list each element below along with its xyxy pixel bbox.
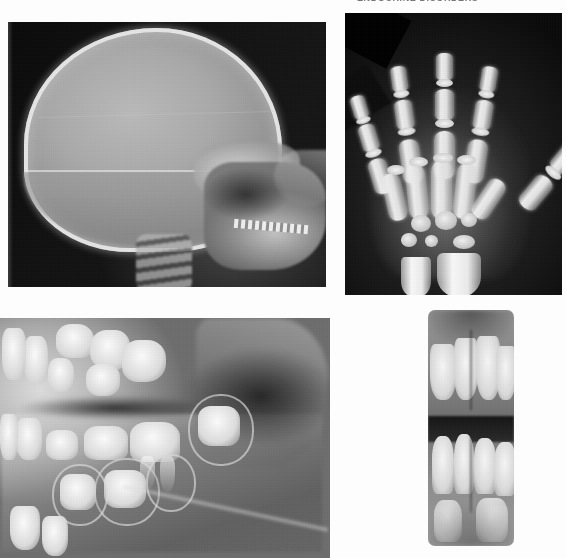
epiphysis-metacarpal-2 [457, 155, 476, 165]
mandibular-alveolar-bone [428, 500, 514, 546]
epiphysis-metacarpal-3 [433, 153, 453, 163]
maxillary-crown-3 [122, 340, 166, 382]
epiphysis-metacarpal-4 [409, 157, 428, 167]
carpal-bone-6 [461, 213, 477, 227]
maxillary-lateral-incisor-left [496, 346, 514, 400]
maxillary-crown-7 [2, 328, 26, 380]
unerupted-molar-crown-distal [198, 406, 240, 446]
maxillary-crown-1 [56, 324, 94, 358]
mandibular-canine [16, 418, 42, 460]
radiograph-lateral-skull [8, 22, 326, 287]
cervical-spine [136, 234, 192, 287]
distal-radius [437, 253, 481, 295]
distal-phalanx-middle [436, 53, 453, 81]
carpal-bone-5 [453, 235, 475, 249]
maxillary-central-incisor-right [454, 338, 478, 400]
maxillary-midline-suture [470, 330, 472, 410]
maxillary-lateral-incisor-right [430, 344, 456, 400]
mandibular-anterior-tooth-1 [10, 506, 40, 550]
radiograph-hand-wrist [345, 13, 562, 295]
carpal-bone-1 [411, 215, 431, 232]
epiphysis-distal-middle [436, 79, 453, 87]
mandibular-lateral-incisor-right [432, 436, 454, 494]
figure-caption-cropped: ENDOCRINE DISORDERS [357, 0, 507, 3]
middle-phalanx-middle [435, 89, 454, 121]
film-periapical [428, 310, 514, 546]
epiphysis-middle-middle [435, 119, 454, 128]
middle-phalanx-ring [393, 99, 415, 131]
mandibular-incisor [0, 414, 18, 460]
carpal-bone-2 [435, 211, 457, 230]
film-edge-left [8, 22, 13, 287]
unerupted-premolar-crown-1 [60, 474, 96, 510]
mandibular-central-incisor-left [474, 438, 496, 494]
caption-text: ENDOCRINE DISORDERS [357, 0, 507, 3]
film-hand-wrist [345, 13, 562, 295]
carpal-bone-3 [401, 233, 417, 247]
maxillary-crown-5 [48, 358, 74, 392]
distal-phalanx-ring [390, 65, 409, 93]
interocclusal-space [20, 396, 210, 420]
maxillary-crown-6 [24, 336, 48, 384]
mandibular-second-deciduous-molar [84, 426, 128, 460]
epiphysis-metacarpal-5 [387, 165, 405, 175]
radiograph-panoramic-dental [0, 318, 330, 558]
middle-phalanx-index [472, 99, 494, 131]
mandibular-lateral-incisor-left [494, 442, 514, 496]
mandibular-anterior-tooth-2 [42, 516, 68, 556]
film-panoramic [0, 318, 330, 558]
carpal-bone-4 [425, 235, 438, 247]
epiphysis-distal-ring [393, 89, 410, 99]
film-lateral-skull [8, 22, 326, 287]
figure-plate: ENDOCRINE DISORDERS [0, 0, 566, 558]
radiograph-anterior-periapical [428, 310, 514, 546]
follicle-developing-molar [146, 454, 196, 512]
maxillary-crown-4 [86, 364, 120, 396]
distal-ulna [401, 257, 431, 295]
mandibular-first-deciduous-molar [46, 430, 78, 460]
